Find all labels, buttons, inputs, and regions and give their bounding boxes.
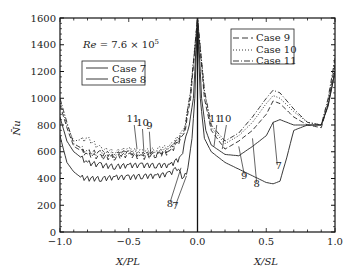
legend-left: Case 7 Case 8 <box>82 61 146 85</box>
y-tick-label: 1600 <box>31 13 56 24</box>
curve-label: 10 <box>219 113 232 124</box>
x-tick-label: −1.0 <box>48 236 72 247</box>
legend-case-8: Case 8 <box>112 74 146 85</box>
x-tick-label: 1.0 <box>327 236 343 247</box>
legend-case-9: Case 9 <box>256 32 290 43</box>
y-tick-label: 600 <box>37 146 56 157</box>
legend-right: Case 9 Case 10 Case 11 <box>231 29 297 66</box>
y-tick-label: 1000 <box>31 93 56 104</box>
x-tick-label: −0.5 <box>117 236 141 247</box>
y-tick-label: 200 <box>37 200 56 211</box>
curve-label: 7 <box>275 160 281 171</box>
curve-label: 8 <box>253 178 259 189</box>
y-axis-title: N̄u <box>11 120 22 136</box>
x-axis-title-left: X/PL <box>115 256 140 267</box>
x-tick-label: 0.5 <box>258 236 274 247</box>
legend-case-7: Case 7 <box>112 63 146 74</box>
curve-labels: 11109871110987 <box>127 113 282 211</box>
reynolds-annotation: Re = 7.6 × 105 <box>82 38 159 50</box>
x-axis-title-right: X/SL <box>253 256 278 267</box>
y-tick-label: 1200 <box>31 66 56 77</box>
y-tick-label: 400 <box>37 173 56 184</box>
legend-case-10: Case 10 <box>256 44 297 55</box>
y-tick-label: 1400 <box>31 39 56 50</box>
x-tick-label: 0.0 <box>190 236 206 247</box>
nusselt-chart: 02004006008001000120014001600 −1.0−0.50.… <box>0 0 353 273</box>
curve-label: 9 <box>241 170 247 181</box>
curve-label: 7 <box>172 200 178 211</box>
y-tick-label: 800 <box>37 120 56 131</box>
curve-label: 9 <box>146 120 152 131</box>
legend-case-11: Case 11 <box>256 55 297 66</box>
